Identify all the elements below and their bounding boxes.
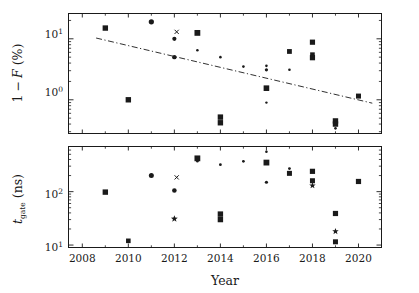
datapoint-square — [356, 94, 361, 99]
scatter-figure: 101 100 1−F(%) 102 101 tgate(ns) 2008201… — [0, 0, 419, 293]
datapoint-dot — [265, 150, 268, 153]
xtick-label: 2012 — [161, 252, 188, 264]
xaxis-label: Year — [210, 273, 239, 288]
datapoint-square — [126, 97, 131, 102]
datapoint-circle — [172, 188, 177, 193]
datapoint-square — [264, 160, 270, 166]
datapoint-dot — [196, 160, 199, 163]
datapoint-square — [333, 239, 338, 244]
datapoint-square — [218, 114, 223, 119]
xtick-label: 2010 — [115, 252, 142, 264]
datapoint-circle — [149, 173, 154, 178]
datapoint-square — [218, 120, 223, 125]
datapoint-dot — [265, 181, 268, 184]
figure-canvas: 101 100 1−F(%) 102 101 tgate(ns) 2008201… — [0, 0, 419, 293]
datapoint-circle — [172, 37, 176, 41]
datapoint-square — [264, 85, 270, 91]
xtick-label: 2018 — [299, 252, 326, 264]
datapoint-square — [287, 171, 292, 176]
datapoint-square — [218, 211, 223, 216]
xtick-label: 2008 — [69, 252, 96, 264]
datapoint-square — [218, 217, 223, 222]
datapoint-square — [310, 55, 315, 60]
datapoint-square — [310, 40, 315, 45]
datapoint-circle — [149, 19, 154, 24]
datapoint-dot — [288, 69, 291, 72]
xtick-label: 2014 — [207, 252, 234, 264]
datapoint-dot — [334, 127, 337, 130]
xtick-label: 2020 — [345, 252, 372, 264]
datapoint-square — [356, 179, 361, 184]
datapoint-dot — [196, 49, 199, 52]
datapoint-dot — [265, 68, 268, 71]
xtick-label: 2016 — [253, 252, 280, 264]
datapoint-dot — [219, 56, 222, 59]
datapoint-square — [333, 121, 338, 126]
datapoint-dot — [219, 163, 222, 166]
datapoint-dot — [242, 160, 245, 163]
datapoint-circle — [172, 55, 176, 59]
datapoint-square — [287, 49, 292, 54]
datapoint-square — [103, 25, 108, 30]
datapoint-dot — [288, 167, 291, 170]
datapoint-square — [310, 169, 315, 174]
datapoint-square — [333, 211, 338, 216]
datapoint-square — [126, 239, 131, 244]
datapoint-dot — [242, 65, 245, 68]
datapoint-square — [194, 30, 200, 36]
datapoint-square — [103, 189, 108, 194]
datapoint-dot — [265, 101, 267, 103]
datapoint-dot — [265, 65, 268, 68]
